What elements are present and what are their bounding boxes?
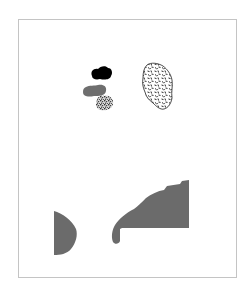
diagram-canvas: [0, 0, 248, 295]
small-speckled-blob-shape: [96, 96, 113, 111]
black-blob-shape: [91, 66, 112, 79]
gray-pill-shape: [83, 85, 106, 97]
right-large-region-shape: [112, 180, 189, 244]
left-half-disc-shape: [54, 211, 77, 255]
large-speckled-blob-shape: [143, 63, 173, 109]
